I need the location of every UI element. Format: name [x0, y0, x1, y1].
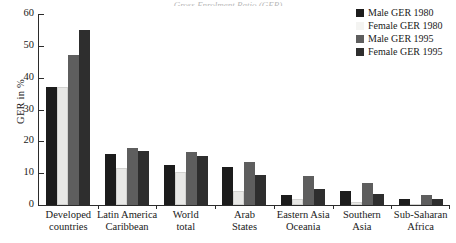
legend-item-label: Female GER 1980 — [368, 20, 442, 31]
bar — [197, 156, 208, 205]
bar — [314, 189, 325, 205]
chart-legend: Male GER 1980Female GER 1980Male GER 199… — [356, 6, 452, 58]
bar — [116, 168, 127, 205]
bar — [362, 183, 373, 205]
bar — [105, 154, 116, 205]
bar-group — [215, 14, 274, 205]
legend-item[interactable]: Male GER 1995 — [356, 32, 452, 45]
bar — [303, 176, 314, 205]
x-axis-line — [38, 205, 450, 206]
legend-item-label: Female GER 1995 — [368, 46, 442, 57]
bar — [281, 195, 292, 205]
bar — [138, 151, 149, 205]
legend-item[interactable]: Male GER 1980 — [356, 6, 452, 19]
legend-item[interactable]: Female GER 1980 — [356, 19, 452, 32]
bar — [233, 191, 244, 205]
legend-item[interactable]: Female GER 1995 — [356, 45, 452, 58]
bar-chart: GER in % 0102030405060 Developedcountrie… — [0, 0, 456, 243]
bar — [399, 199, 410, 205]
bar-group-bars — [274, 14, 333, 205]
legend-swatch-icon — [356, 22, 364, 30]
legend-item-label: Male GER 1995 — [368, 33, 434, 44]
y-axis-tick-label: 0 — [2, 199, 34, 209]
bar — [79, 30, 90, 205]
legend-swatch-icon — [356, 35, 364, 43]
y-axis-tick-label: 30 — [2, 104, 34, 114]
bar — [46, 87, 57, 205]
category-label-line: Africa — [383, 221, 456, 233]
bar-group — [156, 14, 215, 205]
bar — [244, 162, 255, 205]
y-axis-tick-label: 50 — [2, 40, 34, 50]
y-axis-tick-label: 10 — [2, 167, 34, 177]
bar — [57, 87, 68, 205]
bar — [255, 175, 266, 205]
y-axis-tick-label: 40 — [2, 72, 34, 82]
bar — [164, 165, 175, 205]
bar-group — [274, 14, 333, 205]
bar-group-bars — [156, 14, 215, 205]
bar — [292, 199, 303, 205]
bar — [373, 194, 384, 205]
bar-group-bars — [98, 14, 157, 205]
legend-item-label: Male GER 1980 — [368, 7, 434, 18]
bar-group — [39, 14, 98, 205]
bar — [432, 199, 443, 205]
bar — [421, 195, 432, 205]
category-label-line: Sub-Saharan — [383, 209, 456, 221]
y-axis-tick-label: 60 — [2, 8, 34, 18]
bar — [340, 191, 351, 205]
y-axis-tick-label: 20 — [2, 135, 34, 145]
y-axis-tick — [38, 205, 44, 206]
bar-group-bars — [215, 14, 274, 205]
legend-swatch-icon — [356, 48, 364, 56]
bar — [351, 202, 362, 205]
legend-swatch-icon — [356, 9, 364, 17]
bar-group — [98, 14, 157, 205]
bar — [127, 148, 138, 205]
bar — [410, 204, 421, 205]
bar — [186, 152, 197, 205]
bar-group-bars — [39, 14, 98, 205]
bar — [175, 172, 186, 205]
bar — [68, 55, 79, 205]
bar — [222, 167, 233, 205]
x-axis-category-label: Sub-SaharanAfrica — [383, 209, 456, 233]
